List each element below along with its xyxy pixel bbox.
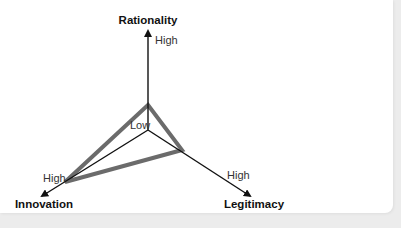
diagram-card: Rationality Innovation Legitimacy High H…: [0, 0, 393, 213]
innovation-high-label: High: [43, 172, 66, 184]
legitimacy-title: Legitimacy: [224, 198, 285, 210]
rationality-high-label: High: [155, 34, 178, 46]
radar-diagram: Rationality Innovation Legitimacy High H…: [0, 0, 401, 228]
legitimacy-high-label: High: [227, 169, 250, 181]
innovation-title: Innovation: [15, 198, 73, 210]
legitimacy-axis: [148, 130, 250, 196]
center-low-label: Low: [130, 119, 150, 131]
rationality-title: Rationality: [119, 14, 178, 26]
